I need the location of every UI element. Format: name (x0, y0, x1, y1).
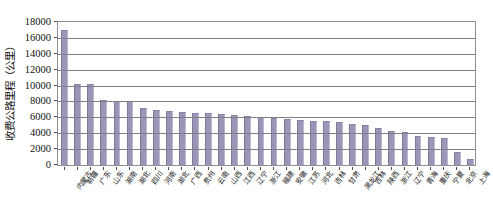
y-tick-mark (54, 69, 57, 70)
bar (454, 152, 461, 165)
x-tick-mark (339, 167, 340, 170)
x-tick-label: 湖北 (138, 171, 152, 186)
x-tick-mark (168, 167, 169, 170)
x-tick-label: 四川 (151, 171, 165, 186)
bar (61, 30, 68, 165)
x-tick-mark (234, 167, 235, 170)
gridline (58, 54, 475, 55)
x-tick-label: 北京 (466, 171, 480, 186)
gridline (58, 117, 475, 118)
x-tick-mark (247, 167, 248, 170)
x-tick-label: 广东 (99, 171, 113, 186)
gridline (58, 133, 475, 134)
x-tick-mark (404, 167, 405, 170)
x-tick-label: 浙江 (269, 171, 283, 186)
x-tick-label: 湖北 (178, 171, 192, 186)
bar (336, 122, 343, 165)
bar (388, 131, 395, 165)
plot-area (57, 21, 476, 166)
y-tick-label: 8000 (0, 95, 51, 106)
x-tick-label: 辽宁 (256, 171, 270, 186)
y-tick-label: 16000 (0, 31, 51, 42)
x-tick-label: 云南 (217, 171, 231, 186)
bar (349, 124, 356, 165)
x-tick-label: 重庆 (439, 171, 453, 186)
x-tick-label: 甘肃 (348, 171, 362, 186)
y-tick-mark (54, 53, 57, 54)
bar (271, 118, 278, 165)
x-tick-mark (116, 167, 117, 170)
x-tick-label: 辽宁 (413, 171, 427, 186)
bar (87, 84, 94, 165)
gridline (58, 70, 475, 71)
y-tick-mark (54, 37, 57, 38)
bar (362, 125, 369, 165)
y-tick-label: 2000 (0, 143, 51, 154)
x-tick-mark (352, 167, 353, 170)
y-tick-label: 6000 (0, 111, 51, 122)
gridline (58, 149, 475, 150)
x-tick-mark (194, 167, 195, 170)
x-tick-label: 上海 (479, 171, 493, 186)
x-tick-mark (77, 167, 78, 170)
y-tick-label: 10000 (0, 79, 51, 90)
y-tick-label: 4000 (0, 127, 51, 138)
x-tick-label: 浙江 (400, 171, 414, 186)
bar (323, 121, 330, 165)
x-tick-label: 河北 (322, 171, 336, 186)
x-tick-mark (208, 167, 209, 170)
x-tick-mark (299, 167, 300, 170)
x-tick-label: 贵州 (204, 171, 218, 186)
x-tick-label: 河南 (164, 171, 178, 186)
x-tick-mark (391, 167, 392, 170)
bar (179, 112, 186, 165)
bar (166, 111, 173, 165)
x-tick-mark (155, 167, 156, 170)
x-tick-mark (456, 167, 457, 170)
x-axis-labels: 内蒙古新疆广东山东湖南湖北四川河南湖北广西贵州云南山西江西辽宁浙江福建安徽江苏河… (57, 167, 476, 212)
y-tick-mark (54, 21, 57, 22)
x-tick-mark (365, 167, 366, 170)
bar-series (58, 22, 475, 165)
x-tick-mark (142, 167, 143, 170)
x-tick-mark (325, 167, 326, 170)
y-tick-mark (54, 164, 57, 165)
bar (467, 159, 474, 165)
x-tick-label: 吉林 (335, 171, 349, 186)
y-tick-label: 18000 (0, 16, 51, 27)
x-tick-mark (430, 167, 431, 170)
bar (297, 120, 304, 165)
bar (258, 117, 265, 165)
x-tick-label: 湖南 (125, 171, 139, 186)
x-tick-mark (221, 167, 222, 170)
bar (218, 114, 225, 165)
bar (153, 110, 160, 165)
x-tick-mark (286, 167, 287, 170)
x-tick-label: 山西 (230, 171, 244, 186)
x-tick-label: 福建 (282, 171, 296, 186)
gridline (58, 101, 475, 102)
gridline (58, 86, 475, 87)
y-tick-label: 12000 (0, 63, 51, 74)
bar (192, 113, 199, 165)
x-tick-mark (129, 167, 130, 170)
x-tick-label: 安徽 (295, 171, 309, 186)
y-tick-mark (54, 116, 57, 117)
x-tick-label: 广西 (191, 171, 205, 186)
x-tick-mark (90, 167, 91, 170)
x-tick-label: 宁夏 (452, 171, 466, 186)
y-tick-mark (54, 85, 57, 86)
bar (415, 136, 422, 165)
bar (231, 115, 238, 165)
x-tick-mark (378, 167, 379, 170)
y-tick-mark (54, 148, 57, 149)
y-tick-label: 0 (0, 159, 51, 170)
x-tick-mark (181, 167, 182, 170)
bar (244, 116, 251, 165)
bar (310, 121, 317, 165)
bar (74, 84, 81, 165)
x-tick-mark (443, 167, 444, 170)
x-tick-label: 江西 (243, 171, 257, 186)
y-tick-label: 14000 (0, 47, 51, 58)
